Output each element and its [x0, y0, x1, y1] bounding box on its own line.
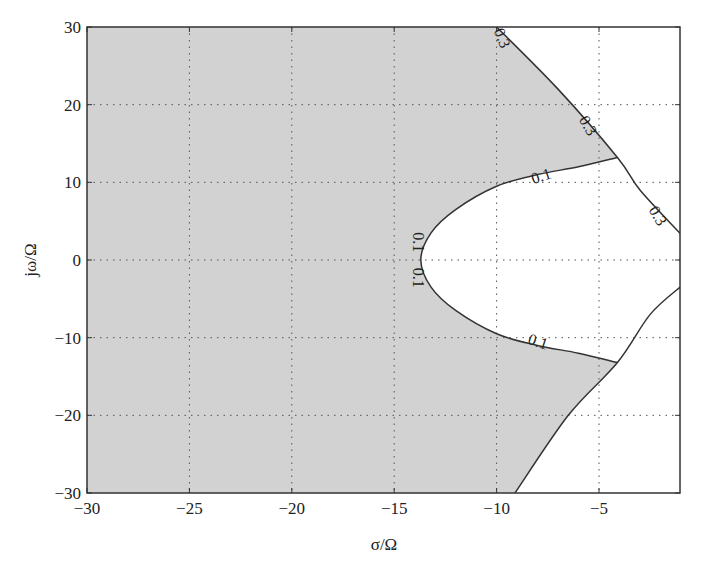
- y-tick-label: 10: [64, 173, 81, 192]
- y-tick-label: 30: [64, 18, 81, 37]
- contour-label: 0.1: [410, 268, 427, 288]
- root-locus-chart: 0.30.30.30.10.10.10.1 −30−25−20−15−10−5 …: [0, 0, 704, 573]
- x-tick-label: −20: [279, 499, 306, 518]
- y-tick-label: 0: [73, 251, 82, 270]
- x-tick-label: −5: [590, 499, 608, 518]
- y-tick-label: −20: [54, 406, 81, 425]
- x-axis-label: σ/Ω: [371, 535, 398, 554]
- y-tick-label: −10: [54, 329, 81, 348]
- y-axis-label: jω/Ω: [21, 243, 40, 277]
- x-tick-label: −15: [381, 499, 408, 518]
- x-tick-label: −25: [176, 499, 203, 518]
- contour-label: 0.1: [410, 232, 427, 252]
- y-tick-label: −30: [54, 484, 81, 503]
- y-tick-label: 20: [64, 96, 81, 115]
- x-tick-label: −10: [483, 499, 510, 518]
